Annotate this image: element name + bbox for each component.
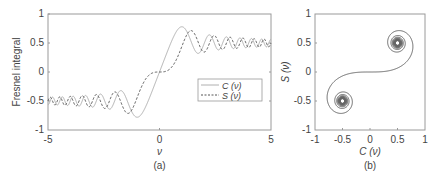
xtick-a-5: 5	[268, 134, 274, 145]
plot-b-ticks	[315, 43, 398, 130]
plot-a-curves	[48, 27, 271, 117]
xlabel-b: C (ν)	[359, 146, 381, 157]
xlabel-a: ν	[157, 146, 162, 157]
ytick-b-m0.5: -0.5	[294, 95, 312, 106]
ytick-b-1: 1	[305, 8, 311, 19]
caption-b: (b)	[364, 160, 376, 171]
ytick-b-0: 0	[305, 66, 311, 77]
ytick-a-0: 0	[38, 66, 44, 77]
xtick-b-0: 0	[367, 134, 373, 145]
ytick-a-m0.5: -0.5	[27, 95, 45, 106]
figure: 1 0.5 0 -0.5 -1 -5 0 5 ν (a) Fresnel int…	[0, 0, 444, 181]
ytick-b-0.5: 0.5	[297, 37, 311, 48]
xtick-a-0: 0	[157, 134, 163, 145]
xtick-b-m1: -1	[311, 134, 320, 145]
legend-label-s: S (ν)	[222, 91, 241, 101]
xtick-a-m5: -5	[44, 134, 53, 145]
cornu-spiral	[327, 31, 413, 114]
caption-a: (a)	[153, 160, 165, 171]
legend-label-c: C (ν)	[222, 81, 242, 91]
ylabel-b: S (ν)	[280, 61, 291, 82]
ylabel-a: Fresnel integral	[11, 38, 22, 107]
plot-b-spiral	[327, 31, 413, 114]
legend: C (ν) S (ν)	[198, 79, 262, 101]
xtick-b-0.5: 0.5	[391, 134, 405, 145]
xtick-b-1: 1	[422, 134, 428, 145]
ytick-a-1: 1	[38, 8, 44, 19]
xtick-b-m0.5: -0.5	[334, 134, 352, 145]
ytick-a-0.5: 0.5	[30, 37, 44, 48]
